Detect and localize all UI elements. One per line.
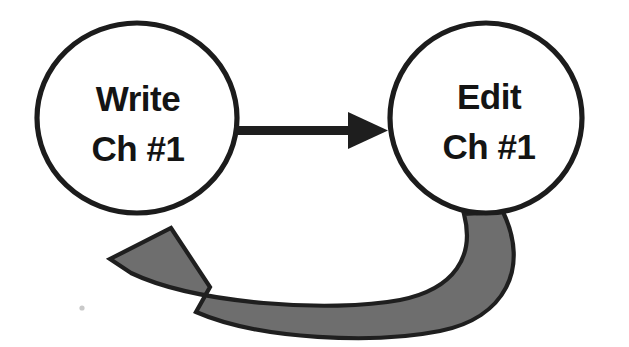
edge-edit-to-write — [110, 212, 514, 338]
node-write-label-line2: Ch #1 — [92, 129, 185, 168]
scan-speckle-artifact — [79, 305, 84, 310]
straight-arrow-head-icon — [348, 112, 388, 149]
node-edit-label-line2: Ch #1 — [443, 127, 536, 166]
cycle-flow-diagram: Write Ch #1 Edit Ch #1 — [0, 0, 629, 347]
node-write[interactable]: Write Ch #1 — [37, 23, 237, 213]
diagram-canvas: Write Ch #1 Edit Ch #1 — [0, 0, 629, 347]
node-write-label-line1: Write — [96, 79, 180, 118]
node-edit-circle[interactable] — [390, 23, 582, 213]
node-edit[interactable]: Edit Ch #1 — [390, 23, 582, 213]
straight-arrow-shaft — [234, 126, 352, 135]
node-edit-label-line1: Edit — [457, 77, 522, 116]
curved-return-arrow-shape — [110, 212, 514, 338]
edge-write-to-edit — [234, 112, 388, 149]
